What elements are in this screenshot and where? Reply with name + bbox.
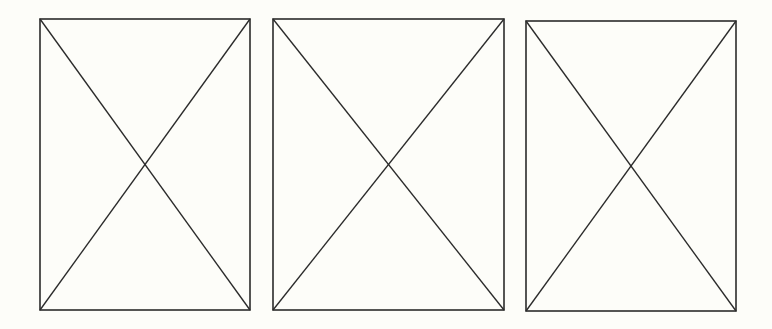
image-placeholder-2	[273, 19, 504, 310]
placeholder-canvas	[0, 0, 772, 329]
image-placeholder-1	[40, 19, 250, 310]
image-placeholder-3	[526, 21, 736, 311]
